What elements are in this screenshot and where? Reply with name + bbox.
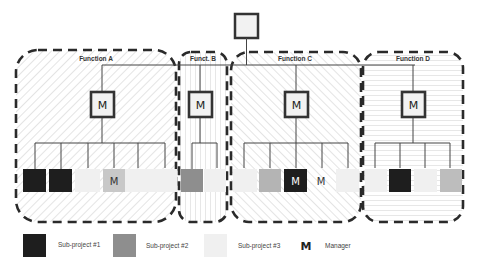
svg-text:M: M [196,99,206,112]
function-b-title: Funct. B [190,55,216,62]
top-node [235,14,258,38]
function-c-title: Function C [278,55,312,62]
svg-text:Sub-project #3: Sub-project #3 [238,242,281,250]
legend-item-manager: M Manager [301,240,352,253]
svg-text:Manager: Manager [325,242,351,250]
function-c-members: M M [233,169,359,192]
legend-item-subproject2: Sub-project #2 [113,234,189,257]
legend-item-subproject1: Sub-project #1 [23,234,101,257]
svg-text:M: M [292,99,302,112]
function-a-region: Function A [16,50,176,222]
manager-d: M [402,92,425,117]
svg-text:M: M [301,240,312,253]
svg-text:Sub-project #2: Sub-project #2 [146,242,189,250]
svg-text:M: M [110,176,119,187]
svg-text:M: M [98,99,108,112]
svg-text:M: M [317,176,326,187]
legend: Sub-project #1 Sub-project #2 Sub-projec… [23,234,351,257]
function-b-region: Funct. B [179,52,227,222]
function-d-title: Function D [396,55,430,62]
svg-text:Sub-project #1: Sub-project #1 [58,241,101,249]
manager-b: M [189,92,212,117]
svg-text:M: M [409,99,419,112]
manager-c: M [285,92,308,117]
function-a-title: Function A [79,55,113,62]
org-diagram: Function A Funct. B Function C Function … [0,0,477,272]
manager-a: M [91,92,114,117]
svg-text:M: M [291,176,300,187]
legend-item-subproject3: Sub-project #3 [204,234,281,257]
